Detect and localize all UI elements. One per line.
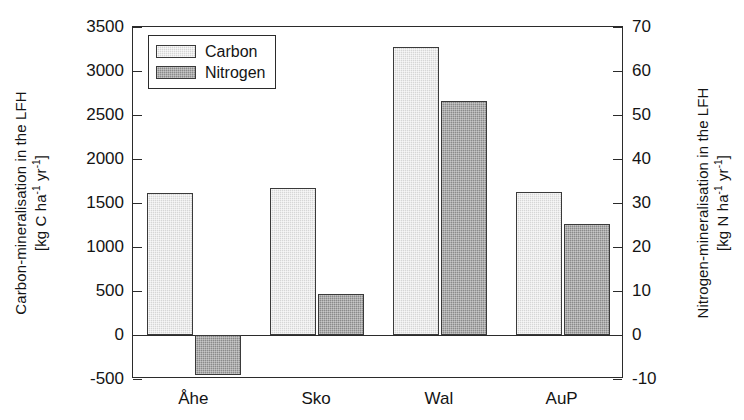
y-axis-right-tick-mark [613, 247, 622, 248]
y-axis-left-tick-mark [133, 27, 142, 28]
y-axis-right-tick-mark [613, 379, 622, 380]
y-axis-left-tick-label: 3500 [58, 18, 124, 35]
y-axis-right-tick-label: 60 [632, 62, 698, 79]
y-axis-left-tick-mark [133, 291, 142, 292]
x-axis-category-label: Sko [261, 390, 371, 407]
y-axis-right-tick-mark [613, 115, 622, 116]
legend-swatch-nitrogen [156, 66, 196, 79]
bar-nitrogen [564, 224, 610, 335]
y-axis-left-tick-label: 2500 [58, 106, 124, 123]
chart-legend: CarbonNitrogen [148, 35, 276, 89]
y-axis-left-tick-mark [133, 203, 142, 204]
y-axis-left-tick-label: -500 [58, 370, 124, 387]
y-axis-left-tick-mark [133, 379, 142, 380]
y-axis-left-title-line1: Carbon-mineralisation in the LFH [11, 38, 31, 368]
x-axis-category-label: Wal [384, 390, 494, 407]
bar-carbon [147, 193, 193, 335]
y-axis-left-tick-mark [133, 247, 142, 248]
y-axis-right-title-line2: [kg N ha-1 yr-1] [713, 38, 733, 368]
y-axis-left-tick-label: 500 [58, 282, 124, 299]
y-axis-right-title: Nitrogen-mineralisation in the LFH [kg N… [693, 38, 733, 368]
y-axis-left-tick-mark [133, 71, 142, 72]
y-axis-right-tick-label: 20 [632, 238, 698, 255]
y-axis-right-tick-mark [613, 291, 622, 292]
chart-figure: Carbon-mineralisation in the LFH [kg C h… [0, 0, 744, 420]
legend-label: Nitrogen [205, 65, 265, 81]
y-axis-left-tick-mark [133, 115, 142, 116]
y-axis-left-tick-mark [133, 159, 142, 160]
y-axis-left-tick-label: 0 [58, 326, 124, 343]
y-axis-right-tick-mark [613, 159, 622, 160]
bar-carbon [516, 192, 562, 335]
y-axis-right-tick-label: 30 [632, 194, 698, 211]
y-axis-left-tick-label: 3000 [58, 62, 124, 79]
bar-nitrogen [441, 101, 487, 335]
bar-carbon [393, 47, 439, 335]
y-axis-right-tick-label: 0 [632, 326, 698, 343]
y-axis-right-tick-label: 50 [632, 106, 698, 123]
y-axis-right-tick-mark [613, 203, 622, 204]
y-axis-right-tick-mark [613, 27, 622, 28]
legend-label: Carbon [205, 44, 257, 60]
legend-item[interactable]: Nitrogen [156, 62, 265, 83]
y-axis-right-tick-label: 40 [632, 150, 698, 167]
y-axis-left-title-line2: [kg C ha-1 yr-1] [31, 38, 51, 368]
y-axis-right-tick-label: 10 [632, 282, 698, 299]
y-axis-right-tick-label: 70 [632, 18, 698, 35]
x-axis-category-label: Åhe [138, 390, 248, 407]
plot-area: CarbonNitrogen [132, 26, 623, 378]
bar-nitrogen [195, 335, 241, 375]
y-axis-left-tick-label: 2000 [58, 150, 124, 167]
legend-swatch-carbon [156, 45, 196, 58]
bar-carbon [270, 188, 316, 335]
y-axis-right-tick-mark [613, 335, 622, 336]
y-axis-right-tick-mark [613, 71, 622, 72]
y-axis-left-tick-label: 1500 [58, 194, 124, 211]
legend-item[interactable]: Carbon [156, 41, 265, 62]
y-axis-left-title: Carbon-mineralisation in the LFH [kg C h… [11, 38, 51, 368]
y-axis-right-tick-label: -10 [632, 370, 698, 387]
y-axis-left-tick-label: 1000 [58, 238, 124, 255]
x-axis-category-label: AuP [507, 390, 617, 407]
bar-nitrogen [318, 294, 364, 335]
y-axis-left-tick-mark [133, 335, 142, 336]
